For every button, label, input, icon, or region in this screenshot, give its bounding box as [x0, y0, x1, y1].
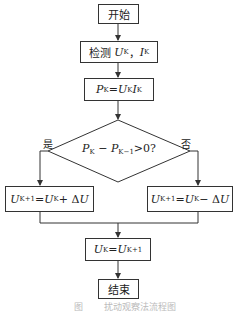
p-var: P	[96, 83, 103, 96]
sep: ，	[129, 44, 140, 60]
u-sub: K+1	[127, 246, 143, 254]
eq: =	[108, 243, 117, 256]
no-label: 否	[181, 136, 191, 151]
eq: =	[109, 83, 118, 96]
u-var: U	[44, 193, 53, 206]
figure-caption: 图 扰动观察法流程图	[40, 300, 210, 313]
u-var: U	[118, 83, 127, 96]
decrease-node: UK+1 =UK − ΔU	[147, 186, 233, 212]
power-node: PK =UKIK	[84, 78, 154, 101]
decision-node: PK − PK−1>0?	[60, 142, 178, 156]
u-sub: K+1	[20, 195, 36, 203]
measure-node: 检测 UK，IK	[80, 41, 158, 63]
condition: >0?	[134, 142, 156, 155]
increase-node: UK+1 =UK + ΔU	[5, 186, 94, 212]
measure-prefix: 检测	[89, 44, 111, 60]
p-sub: K−1	[118, 148, 134, 156]
end-label: 结束	[108, 281, 130, 297]
u-var: U	[10, 193, 19, 206]
u-var: U	[220, 193, 229, 206]
eq: =	[176, 193, 185, 206]
eq: =	[35, 193, 44, 206]
op: + Δ	[59, 193, 80, 206]
minus: −	[95, 142, 111, 155]
yes-label: 是	[43, 136, 53, 151]
u-var: U	[114, 46, 123, 59]
update-node: UK =UK+1	[85, 238, 151, 261]
end-node: 结束	[98, 279, 139, 299]
u-var: U	[117, 243, 126, 256]
u-var: U	[151, 193, 160, 206]
i-sub: K	[144, 48, 149, 56]
u-sub: K+1	[160, 195, 176, 203]
u-var: U	[79, 193, 88, 206]
start-label: 开始	[108, 6, 130, 22]
op: − Δ	[199, 193, 220, 206]
u-var: U	[185, 193, 194, 206]
u-var: U	[94, 243, 103, 256]
start-node: 开始	[98, 4, 139, 24]
i-sub: K	[137, 86, 142, 94]
